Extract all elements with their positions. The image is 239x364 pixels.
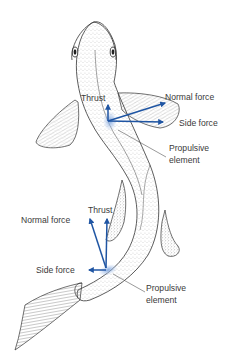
lower-normal-force-label: Normal force <box>21 215 70 225</box>
pelvic-fin <box>161 210 179 256</box>
upper-propulsive-label-line2: element <box>169 155 200 165</box>
diagram-canvas <box>0 0 239 364</box>
lower-thrust-label: Thrust <box>88 205 112 215</box>
lower-side-force-label: Side force <box>36 265 75 275</box>
lower-propulsive-label-line1: Propulsive <box>146 283 186 293</box>
upper-thrust-label: Thrust <box>81 93 105 103</box>
lower-thrust-arrow <box>106 219 107 268</box>
fish-force-diagram: Thrust Normal force Side force Propulsiv… <box>0 0 239 364</box>
fish-body <box>72 22 159 301</box>
upper-side-force-label: Side force <box>179 118 218 128</box>
tail-fin <box>15 283 82 350</box>
upper-side-force-arrow <box>108 121 163 122</box>
lower-normal-force-arrow <box>90 219 106 268</box>
lower-propulsive-label-line2: element <box>146 295 177 305</box>
upper-propulsive-label-line1: Propulsive <box>169 143 209 153</box>
lower-force-vectors <box>89 219 107 270</box>
left-pectoral-fin <box>36 100 79 148</box>
upper-normal-force-label: Normal force <box>165 92 214 102</box>
